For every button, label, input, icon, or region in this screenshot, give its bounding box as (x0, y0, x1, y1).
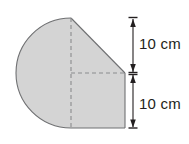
dimension-upper-top-arrowhead (130, 19, 136, 27)
figure-canvas (0, 0, 189, 144)
geometry-figure: 10 cm 10 cm (0, 0, 189, 144)
dimension-label-upper: 10 cm (139, 36, 181, 51)
dimension-lower (129, 75, 138, 129)
dimension-upper (129, 18, 138, 73)
dimension-lower-top-arrowhead (130, 75, 136, 83)
dimension-label-lower: 10 cm (139, 96, 181, 111)
dimension-lines-group (129, 18, 138, 129)
dimension-upper-bottom-arrowhead (130, 64, 136, 72)
dimension-lower-bottom-arrowhead (130, 120, 136, 128)
